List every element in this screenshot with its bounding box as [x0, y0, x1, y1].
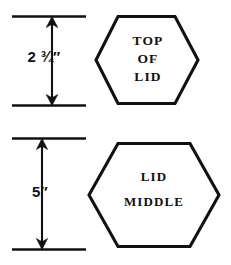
section-top-of-lid: 2 ¾″ TOP OF LID — [12, 17, 198, 106]
dimension-label-top-of-lid: 2 ¾″ — [27, 48, 60, 65]
hexagon-label-middle-line-1: LID — [141, 169, 167, 184]
section-lid-middle: 5″ LID MIDDLE — [12, 139, 219, 250]
pattern-diagram: 2 ¾″ TOP OF LID 5″ LID — [0, 0, 231, 265]
hexagon-label-top-line-2: OF — [138, 51, 159, 66]
hexagon-label-top-line-1: TOP — [133, 33, 164, 48]
hexagon-label-middle-line-2: MIDDLE — [124, 194, 184, 209]
hexagon-label-top-line-3: LID — [134, 69, 161, 84]
pattern-diagram-canvas: 2 ¾″ TOP OF LID 5″ LID — [0, 0, 231, 265]
dimension-label-lid-middle: 5″ — [32, 183, 48, 200]
